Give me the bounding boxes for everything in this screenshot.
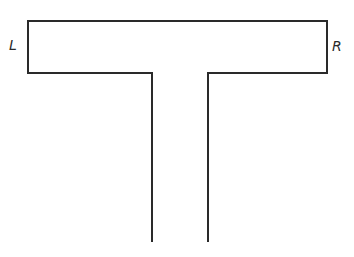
t-shape-outline <box>28 21 327 242</box>
t-shape-diagram <box>0 0 354 257</box>
left-label: L <box>9 37 17 53</box>
right-label: R <box>332 38 342 54</box>
